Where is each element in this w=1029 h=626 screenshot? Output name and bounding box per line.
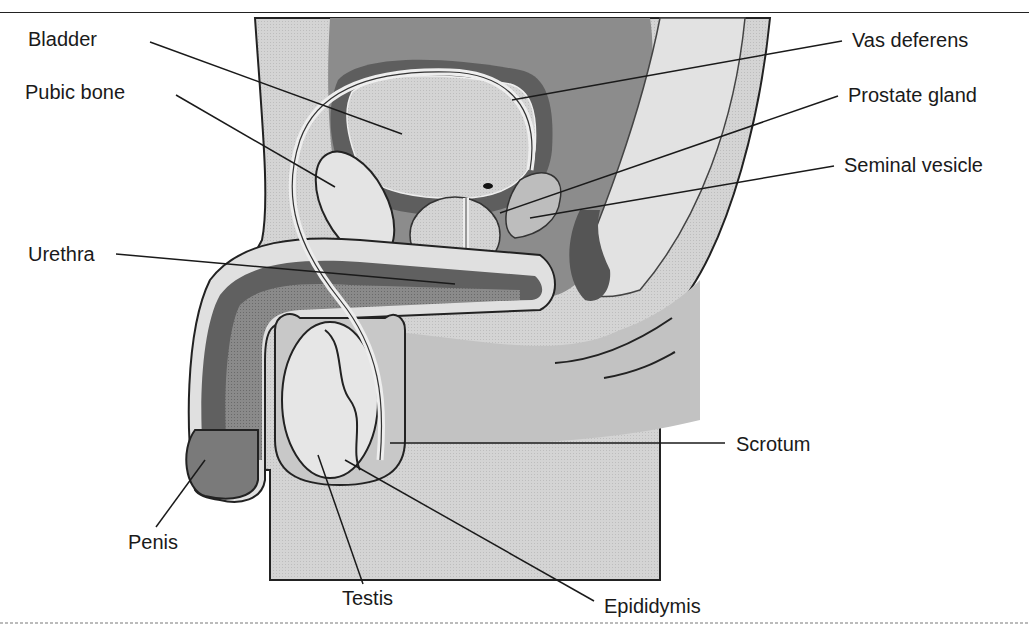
label-testis: Testis — [342, 588, 393, 608]
label-bladder: Bladder — [28, 29, 97, 49]
label-penis: Penis — [128, 532, 178, 552]
label-pubic-bone: Pubic bone — [25, 82, 125, 102]
label-urethra: Urethra — [28, 244, 95, 264]
bottom-divider-rule — [0, 622, 1029, 624]
label-prostate-gland: Prostate gland — [848, 85, 977, 105]
label-vas-deferens: Vas deferens — [852, 30, 968, 50]
label-epididymis: Epididymis — [604, 596, 701, 616]
label-seminal-vesicle: Seminal vesicle — [844, 155, 983, 175]
label-scrotum: Scrotum — [736, 434, 810, 454]
